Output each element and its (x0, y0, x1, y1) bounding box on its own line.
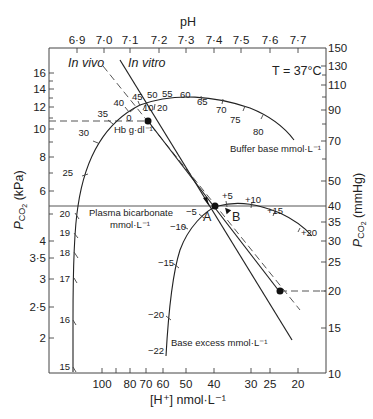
svg-text:−5: −5 (186, 206, 197, 217)
mmhg-tick-label: 110 (328, 79, 346, 91)
svg-text:−22: −22 (148, 345, 164, 356)
mmhg-tick-label: 15 (328, 322, 341, 334)
arrow-a: A (203, 197, 212, 224)
svg-text:19: 19 (59, 227, 70, 238)
buffer-base-label: Buffer base mmol·L⁻¹ (230, 143, 321, 154)
svg-text:80: 80 (253, 126, 264, 137)
buffer-base-curve (73, 97, 294, 372)
mmhg-tick-label: 70 (328, 135, 341, 147)
kpa-tick-label: 10 (33, 123, 46, 135)
kpa-tick-label: 3 (40, 273, 46, 285)
hplus-tick-label: 80 (124, 378, 137, 390)
svg-text:−15: −15 (158, 257, 174, 268)
mmhg-tick-label: 20 (328, 285, 341, 297)
svg-text:30: 30 (78, 127, 89, 138)
ph-tick-label: 7·2 (151, 34, 168, 46)
ph-tick-label: 7·0 (96, 34, 113, 46)
mmhg-tick-label: 10 (328, 368, 341, 380)
upper-equilibration-point (145, 118, 152, 125)
svg-text:16: 16 (59, 314, 70, 325)
kpa-tick-label: 16 (33, 67, 46, 79)
hplus-axis-title: [H⁺] nmol·L⁻¹ (150, 393, 226, 407)
mmhg-tick-label: 150 (328, 42, 347, 54)
hplus-tick-label: 70 (140, 378, 153, 390)
hplus-tick-label: 30 (245, 378, 258, 390)
svg-text:−20: −20 (148, 309, 164, 320)
svg-text:15: 15 (59, 361, 70, 372)
hplus-tick-label: 50 (180, 378, 193, 390)
plasma-bicarbonate-unit: mmol·L⁻¹ (110, 219, 150, 230)
svg-text:+15: +15 (267, 205, 283, 216)
mmhg-tick-label: 50 (328, 175, 341, 187)
kpa-tick-label: 6 (40, 185, 46, 197)
svg-text:−10: −10 (170, 221, 186, 232)
svg-text:+10: +10 (245, 194, 261, 205)
point-a-label: A (203, 210, 212, 224)
in-vitro-label: In vitro (128, 56, 166, 70)
kpa-tick-label: 8 (40, 151, 46, 163)
normal-point (212, 203, 219, 210)
svg-text:55: 55 (162, 88, 173, 99)
svg-text:60: 60 (180, 89, 191, 100)
kpa-tick-label: 12 (33, 101, 46, 113)
svg-text:+20: +20 (301, 227, 317, 238)
svg-text:65: 65 (197, 96, 208, 107)
svg-text:18: 18 (59, 247, 70, 258)
kpa-tick-label: 14 (33, 83, 46, 95)
svg-text:75: 75 (230, 114, 241, 125)
svg-text:20: 20 (59, 208, 70, 219)
mmhg-tick-label: 30 (328, 235, 341, 247)
kpa-tick-label: 2·5 (29, 301, 46, 313)
svg-text:70: 70 (216, 104, 227, 115)
svg-text:35: 35 (97, 108, 108, 119)
svg-text:45: 45 (132, 91, 143, 102)
kpa-tick-label: 3·5 (29, 252, 46, 264)
svg-text:40: 40 (113, 97, 124, 108)
mmhg-tick-label: 25 (328, 256, 341, 268)
ph-axis: 6·9 7·0 7·1 7·2 7·3 7·4 7·5 7·6 7·7 (69, 34, 307, 53)
ph-tick-label: 7·1 (122, 34, 139, 46)
ph-tick-label: 7·3 (178, 34, 195, 46)
acid-base-nomogram: pH 6·9 7·0 7·1 7·2 7·3 7·4 7·5 7·6 7·7 1… (0, 0, 373, 419)
point-b-label: B (232, 210, 240, 224)
hplus-tick-label: 20 (292, 378, 305, 390)
plasma-bicarbonate-label: Plasma bicarbonate (89, 207, 173, 218)
mmhg-tick-label: 130 (328, 60, 347, 72)
svg-text:0: 0 (126, 112, 131, 123)
svg-text:20: 20 (157, 102, 168, 113)
ph-tick-label: 7·7 (290, 34, 307, 46)
hplus-tick-label: 100 (92, 378, 111, 390)
svg-text:50: 50 (147, 89, 158, 100)
hplus-tick-label: 25 (264, 378, 277, 390)
temperature-label: T = 37°C (272, 64, 322, 78)
hb-label: Hb g·dl⁻¹ (114, 124, 153, 135)
ph-tick-label: 7·4 (206, 34, 223, 46)
in-vivo-label: In vivo (68, 56, 104, 70)
mmhg-tick-label: 40 (328, 200, 341, 212)
kpa-tick-label: 2 (40, 332, 46, 344)
mmhg-tick-label: 35 (328, 216, 341, 228)
svg-text:17: 17 (59, 273, 70, 284)
hplus-tick-label: 40 (208, 378, 221, 390)
bicarbonate-scale: 20 19 18 17 16 15 (59, 208, 79, 372)
ph-tick-label: 7·5 (233, 34, 250, 46)
mmhg-tick-label: 90 (328, 104, 341, 116)
svg-text:25: 25 (62, 167, 73, 178)
base-excess-label: Base excess mmol·L⁻¹ (171, 337, 267, 348)
base-excess-curve (166, 203, 312, 356)
kpa-axis-title: PCO2 (kPa) (12, 170, 28, 229)
kpa-tick-label: 4 (40, 235, 47, 247)
ph-axis-title: pH (180, 15, 196, 29)
ph-tick-label: 6·9 (69, 34, 86, 46)
mmhg-axis: 150 130 110 90 70 50 40 35 30 25 20 15 1… (321, 42, 347, 380)
ph-tick-label: 7·6 (262, 34, 279, 46)
mmhg-axis-title: PCO2 (mmHg) (351, 173, 367, 247)
lower-equilibration-point (277, 288, 284, 295)
hplus-tick-label: 60 (157, 378, 170, 390)
svg-text:+5: +5 (222, 190, 233, 201)
hplus-axis: 100 80 70 60 50 40 30 25 20 (92, 368, 304, 390)
